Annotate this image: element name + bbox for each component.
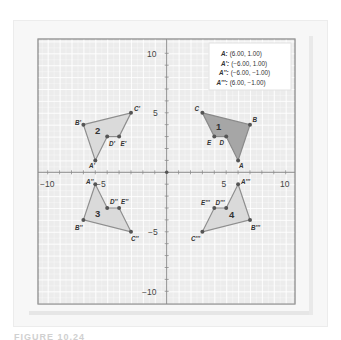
point-label-C2: C'' <box>131 235 139 242</box>
y-tick-label: 10 <box>147 49 157 59</box>
point-label-A1: A' <box>88 162 96 169</box>
point-label-E1: E' <box>121 140 127 147</box>
x-tick-label: −10 <box>40 179 55 189</box>
point-label-D2: D'' <box>110 198 118 205</box>
shape-4-label: 4 <box>229 209 235 220</box>
y-tick-label: 5 <box>153 108 158 118</box>
figure-caption: FIGURE 10.24 <box>14 333 85 340</box>
point-label-E3: E''' <box>201 199 210 206</box>
point-label-A2: A'' <box>85 178 94 185</box>
legend-value: (6.00, 1.00) <box>230 50 262 58</box>
legend: A:(6.00, 1.00) A':(−6.00, 1.00) A'':(−6.… <box>209 43 291 90</box>
legend-value: (−6.00, 1.00) <box>231 60 267 68</box>
point-label-D3: D''' <box>216 199 226 206</box>
point-label-E2: E'' <box>121 198 129 205</box>
point-label-A3: A''' <box>240 178 251 185</box>
y-tick-label: −5 <box>148 227 158 237</box>
legend-value: (−6.00, −1.00) <box>231 69 271 77</box>
x-tick-label: 5 <box>222 179 227 189</box>
legend-label: A': <box>220 60 229 67</box>
svg-text:A':(−6.00, 1.00): A':(−6.00, 1.00) <box>220 60 267 68</box>
x-tick-label: 10 <box>280 179 290 189</box>
point-label-C3: C''' <box>191 235 201 242</box>
svg-text:A:(6.00, 1.00): A:(6.00, 1.00) <box>220 50 262 58</box>
point-label-C: C <box>195 105 200 112</box>
svg-text:A''':(6.00, −1.00): A''':(6.00, −1.00) <box>216 79 266 87</box>
point-label-B2: B'' <box>75 224 83 231</box>
legend-label: A''': <box>216 79 228 86</box>
shape-2-label: 2 <box>95 125 100 136</box>
svg-text:A'':(−6.00, −1.00): A'':(−6.00, −1.00) <box>218 69 270 77</box>
point-label-C1: C' <box>134 105 141 112</box>
point-label-D: D <box>220 139 225 146</box>
legend-label: A'': <box>218 69 229 76</box>
shape-3-label: 3 <box>95 208 100 219</box>
point-label-B3: B''' <box>251 224 261 231</box>
coordinate-plane: −10 −5 5 10 10 5 −5 −10 A:(6.00, 1.00) A… <box>0 0 341 340</box>
point-label-B: B <box>253 116 258 123</box>
legend-value: (6.00, −1.00) <box>230 79 266 87</box>
point-label-A: A <box>238 162 244 169</box>
shape-1-label: 1 <box>216 121 222 132</box>
legend-label: A: <box>220 50 228 57</box>
point-label-D1: D' <box>109 140 116 147</box>
origin-point <box>165 171 169 175</box>
y-tick-label: −10 <box>142 287 157 297</box>
point-label-B1: B' <box>75 119 82 126</box>
